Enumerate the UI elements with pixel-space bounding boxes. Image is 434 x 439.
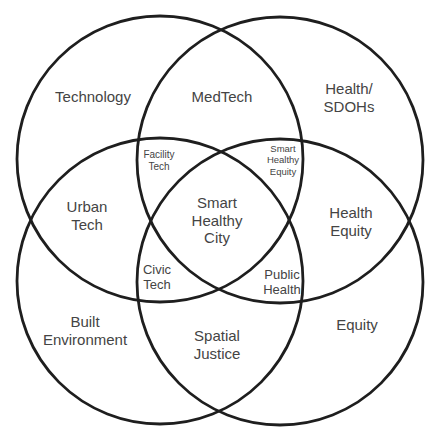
label-line: Built bbox=[43, 313, 127, 331]
label-line: SDOHs bbox=[324, 98, 375, 116]
label-line: Healthy bbox=[267, 154, 299, 165]
label-line: Public bbox=[263, 267, 301, 282]
label-smart-healthy-city: Smart Healthy City bbox=[192, 194, 243, 247]
label-line: Spatial bbox=[194, 327, 241, 345]
label-equity: Equity bbox=[336, 316, 378, 334]
label-line: Smart bbox=[192, 194, 243, 212]
label-facility-tech: Facility Tech bbox=[143, 149, 174, 173]
label-line: Technology bbox=[55, 88, 131, 106]
label-line: Tech bbox=[143, 161, 174, 173]
label-line: Environment bbox=[43, 331, 127, 349]
label-line: Health bbox=[329, 204, 372, 222]
label-medtech: MedTech bbox=[192, 88, 253, 106]
label-line: Health bbox=[263, 282, 301, 297]
label-smart-healthy-equity: Smart Healthy Equity bbox=[267, 143, 299, 177]
label-spatial-justice: Spatial Justice bbox=[194, 327, 241, 362]
label-line: Equity bbox=[336, 316, 378, 334]
label-line: Tech bbox=[143, 277, 171, 292]
label-line: Equity bbox=[329, 222, 372, 240]
label-line: Health/ bbox=[324, 80, 375, 98]
label-health-equity: Health Equity bbox=[329, 204, 372, 239]
label-line: Justice bbox=[194, 345, 241, 363]
label-urban-tech: Urban Tech bbox=[67, 198, 108, 233]
label-built-environment: Built Environment bbox=[43, 313, 127, 348]
label-line: Tech bbox=[67, 216, 108, 234]
label-line: Civic bbox=[143, 262, 171, 277]
label-line: Healthy bbox=[192, 212, 243, 230]
label-line: City bbox=[192, 230, 243, 248]
label-line: Equity bbox=[267, 166, 299, 177]
label-public-health: Public Health bbox=[263, 267, 301, 298]
label-civic-tech: Civic Tech bbox=[143, 262, 171, 293]
label-technology: Technology bbox=[55, 88, 131, 106]
label-line: MedTech bbox=[192, 88, 253, 106]
label-line: Urban bbox=[67, 198, 108, 216]
label-line: Smart bbox=[267, 143, 299, 154]
label-line: Facility bbox=[143, 149, 174, 161]
label-health-sdohs: Health/ SDOHs bbox=[324, 80, 375, 115]
